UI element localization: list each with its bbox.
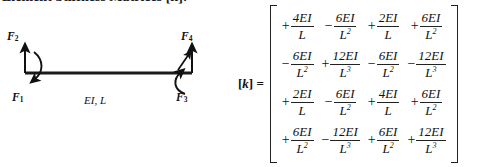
denominator-exponent: 3 bbox=[347, 141, 351, 150]
matrix-term: +6EIL2 bbox=[411, 87, 443, 117]
fraction-denominator: L2 bbox=[337, 27, 352, 42]
fraction-denominator: L bbox=[297, 103, 308, 118]
fraction-numerator: 6EI bbox=[377, 125, 400, 140]
term-fraction: 2EIL bbox=[291, 87, 314, 117]
fraction-numerator: 6EI bbox=[334, 11, 357, 26]
matrix-cell-4-3: +6EIL2 bbox=[364, 122, 404, 160]
fraction-denominator: L bbox=[297, 27, 308, 42]
force-label-f2: F2 bbox=[7, 30, 18, 43]
denominator-exponent: 3 bbox=[433, 141, 437, 150]
term-fraction: 6EIL2 bbox=[291, 49, 314, 79]
term-sign: − bbox=[368, 57, 377, 71]
matrix-cell-2-3: −6EIL2 bbox=[364, 46, 404, 84]
fraction-denominator: L3 bbox=[423, 141, 438, 156]
matrix-cell-4-4: +12EIL3 bbox=[403, 122, 449, 160]
matrix-cell-4-2: −12EIL3 bbox=[318, 122, 364, 160]
matrix-term: −12EIL3 bbox=[322, 125, 360, 155]
denominator-exponent: 2 bbox=[390, 141, 394, 150]
term-fraction: 2EIL bbox=[377, 11, 400, 41]
force-label-f3: F3 bbox=[176, 91, 187, 104]
matrix-cell-3-3: +4EIL bbox=[364, 84, 404, 122]
matrix-term: +2EIL bbox=[368, 11, 400, 41]
matrix-term: −6EIL2 bbox=[282, 49, 314, 79]
matrix-cell-3-2: −6EIL2 bbox=[318, 84, 364, 122]
matrix-term: −6EIL2 bbox=[368, 49, 400, 79]
term-sign: + bbox=[368, 133, 377, 147]
force-arrow-f4-inclined bbox=[178, 54, 189, 70]
moment-arrow-f1 bbox=[34, 52, 42, 80]
denominator-exponent: 2 bbox=[390, 65, 394, 74]
fraction-denominator: L bbox=[382, 103, 393, 118]
matrix-cell-3-1: +2EIL bbox=[278, 84, 318, 122]
fraction-numerator: 6EI bbox=[420, 11, 443, 26]
term-sign: + bbox=[282, 133, 291, 147]
matrix-term: +4EIL bbox=[368, 87, 400, 117]
denominator-exponent: 2 bbox=[347, 27, 351, 36]
matrix-term: −6EIL2 bbox=[325, 11, 357, 41]
fraction-denominator: L2 bbox=[295, 141, 310, 156]
matrix-term: +4EIL bbox=[282, 11, 314, 41]
term-sign: + bbox=[282, 19, 291, 33]
fraction-numerator: 6EI bbox=[377, 49, 400, 64]
matrix-term: +2EIL bbox=[282, 87, 314, 117]
term-sign: − bbox=[407, 57, 416, 71]
term-fraction: 6EIL2 bbox=[377, 125, 400, 155]
matrix-term: +6EIL2 bbox=[282, 125, 314, 155]
term-fraction: 12EIL3 bbox=[416, 49, 445, 79]
term-fraction: 6EIL2 bbox=[420, 87, 443, 117]
matrix-term: +6EIL2 bbox=[368, 125, 400, 155]
stiffness-matrix-table: +4EIL−6EIL2+2EIL+6EIL2−6EIL2+12EIL3−6EIL… bbox=[278, 8, 450, 160]
term-fraction: 4EIL bbox=[291, 11, 314, 41]
fraction-denominator: L2 bbox=[423, 103, 438, 118]
force-label-f1: F1 bbox=[12, 91, 23, 104]
term-fraction: 6EIL2 bbox=[420, 11, 443, 41]
matrix-row: +6EIL2−12EIL3+6EIL2+12EIL3 bbox=[278, 122, 450, 160]
denominator-exponent: 2 bbox=[433, 27, 437, 36]
denominator-exponent: 2 bbox=[347, 103, 351, 112]
beam-element-diagram: F2 F1 F4 F3 EI, L bbox=[0, 18, 235, 128]
matrix-bracket-right bbox=[451, 5, 458, 163]
fraction-denominator: L3 bbox=[423, 65, 438, 80]
term-sign: + bbox=[322, 57, 331, 71]
denominator-exponent: 3 bbox=[433, 65, 437, 74]
fraction-numerator: 2EI bbox=[291, 87, 314, 102]
term-sign: + bbox=[368, 95, 377, 109]
fraction-numerator: 4EI bbox=[291, 11, 314, 26]
fraction-numerator: 6EI bbox=[291, 49, 314, 64]
term-sign: − bbox=[325, 19, 334, 33]
matrix-cell-1-3: +2EIL bbox=[364, 8, 404, 46]
matrix-row: +2EIL−6EIL2+4EIL+6EIL2 bbox=[278, 84, 450, 122]
force-label-f4: F4 bbox=[181, 30, 192, 43]
matrix-container: +4EIL−6EIL2+2EIL+6EIL2−6EIL2+12EIL3−6EIL… bbox=[270, 4, 458, 164]
term-sign: − bbox=[325, 95, 334, 109]
term-fraction: 12EIL3 bbox=[416, 125, 445, 155]
fraction-numerator: 6EI bbox=[291, 125, 314, 140]
fraction-denominator: L2 bbox=[380, 141, 395, 156]
matrix-term: +12EIL3 bbox=[407, 125, 445, 155]
fraction-denominator: L2 bbox=[380, 65, 395, 80]
fraction-numerator: 12EI bbox=[416, 49, 445, 64]
term-sign: + bbox=[411, 19, 420, 33]
term-fraction: 12EIL3 bbox=[330, 49, 359, 79]
term-fraction: 6EIL2 bbox=[377, 49, 400, 79]
fraction-denominator: L2 bbox=[337, 103, 352, 118]
term-sign: − bbox=[322, 133, 331, 147]
member-property-label: EI, L bbox=[84, 94, 106, 106]
denominator-exponent: 2 bbox=[433, 103, 437, 112]
fraction-numerator: 12EI bbox=[330, 125, 359, 140]
denominator-exponent: 3 bbox=[347, 65, 351, 74]
denominator-exponent: 2 bbox=[304, 65, 308, 74]
matrix-cell-4-1: +6EIL2 bbox=[278, 122, 318, 160]
matrix-term: −12EIL3 bbox=[407, 49, 445, 79]
fraction-numerator: 6EI bbox=[334, 87, 357, 102]
fraction-denominator: L3 bbox=[337, 65, 352, 80]
term-fraction: 6EIL2 bbox=[334, 87, 357, 117]
denominator-exponent: 2 bbox=[304, 141, 308, 150]
matrix-cell-2-2: +12EIL3 bbox=[318, 46, 364, 84]
fraction-denominator: L2 bbox=[423, 27, 438, 42]
matrix-cell-2-4: −12EIL3 bbox=[403, 46, 449, 84]
fraction-denominator: L bbox=[382, 27, 393, 42]
matrix-cell-1-4: +6EIL2 bbox=[403, 8, 449, 46]
section-heading: Element Stiffness Matrices [k]: bbox=[2, 0, 187, 5]
matrix-row: −6EIL2+12EIL3−6EIL2−12EIL3 bbox=[278, 46, 450, 84]
